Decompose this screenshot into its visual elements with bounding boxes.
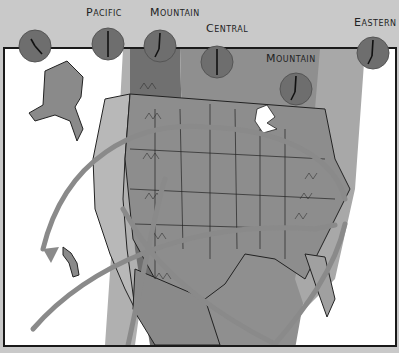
clock-alaska-icon [18,29,52,63]
zone-label-central: Central [206,22,248,35]
clock-eastern-icon [356,36,390,70]
arrow-head [43,247,59,263]
map-frame [3,47,397,347]
map-canvas [5,49,395,345]
zone-label-pacific: Pacific [86,6,122,19]
alaska [29,61,83,141]
clock-mountain-icon [143,29,177,63]
zone-label-mountain: Mountain [150,6,200,19]
clock-central-icon [200,45,234,79]
zone-label-mountain-2: Mountain [266,52,316,65]
clock-pacific-icon [91,27,125,61]
hawaii [63,247,79,277]
zone-label-eastern: Eastern [354,16,397,29]
clock-mountain-2-icon [279,72,313,106]
